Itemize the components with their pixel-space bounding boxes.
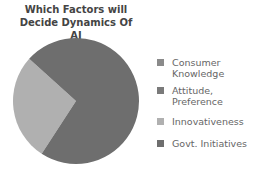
legend-swatch xyxy=(157,140,164,147)
chart-legend: Consumer Knowledge Attitude, Preference … xyxy=(156,57,256,155)
pie-slices xyxy=(13,38,139,164)
legend-swatch xyxy=(157,87,164,94)
legend-item-attitude-preference: Attitude, Preference xyxy=(156,85,256,107)
legend-swatch xyxy=(157,59,164,66)
legend-item-innovativeness: Innovativeness xyxy=(156,116,256,127)
legend-item-consumer-knowledge: Consumer Knowledge xyxy=(156,57,256,79)
legend-item-govt-initiatives: Govt. Initiatives xyxy=(156,138,256,149)
legend-swatch xyxy=(157,118,164,125)
